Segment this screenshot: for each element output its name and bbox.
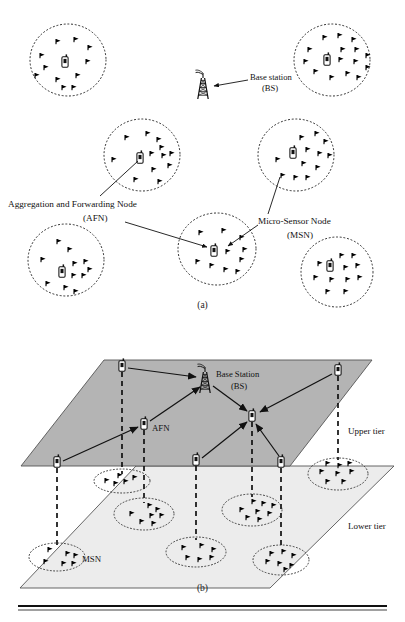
afn-arrow-to-center — [125, 222, 207, 247]
afn-abbr-label-a: (AFN) — [83, 213, 108, 223]
msn-leader-line — [268, 177, 280, 214]
cluster-top-right — [294, 24, 371, 96]
panel-a-caption: (a) — [0, 300, 405, 310]
bottom-rule — [18, 606, 387, 610]
bs-abbr-label-a: (BS) — [262, 83, 278, 93]
cluster-center-bottom — [178, 213, 256, 285]
afn-node — [62, 54, 68, 67]
panel-b: Base Station (BS) AFN MSN Upper tier Low… — [20, 358, 394, 588]
lower-tier-plane — [20, 466, 394, 588]
msn-group — [303, 33, 370, 80]
lower-tier-label: Lower tier — [348, 521, 386, 531]
figure-two-tier-sensor-network: Base station (BS) Aggregation and Forwar… — [0, 0, 405, 622]
afn-label-b: AFN — [152, 423, 170, 433]
base-station-icon — [195, 70, 208, 99]
msn-group — [195, 228, 247, 274]
msn-label-a: Micro-Sensor Node — [258, 216, 331, 226]
msn-group — [40, 239, 92, 294]
upper-tier-label: Upper tier — [348, 426, 385, 436]
afn-node — [327, 258, 333, 271]
msn-abbr-label-a: (MSN) — [287, 230, 313, 240]
cluster-top-left — [30, 24, 106, 96]
panel-b-caption: (b) — [0, 583, 405, 593]
bs-label-b: Base Station — [216, 369, 260, 379]
cluster-bottom-left — [28, 224, 104, 296]
afn-node — [59, 264, 65, 277]
upper-tier-plane — [21, 360, 372, 466]
cluster-mid-right — [258, 119, 334, 191]
cluster-mid-left — [104, 119, 180, 191]
msn-group — [275, 131, 332, 180]
msn-label-b: MSN — [82, 554, 102, 564]
bs-label-a: Base station — [250, 72, 292, 82]
msn-arrow-to-center — [228, 225, 258, 246]
afn-label-a: Aggregation and Forwarding Node — [8, 199, 137, 209]
panel-a: Base station (BS) Aggregation and Forwar… — [8, 24, 373, 307]
msn-group — [313, 253, 362, 294]
afn-node — [290, 145, 296, 158]
afn-node — [211, 243, 217, 256]
bs-abbr-label-b: (BS) — [231, 381, 247, 391]
afn-node — [324, 52, 330, 65]
cluster-bottom-right — [301, 237, 373, 307]
bs-leader-line — [214, 80, 248, 86]
